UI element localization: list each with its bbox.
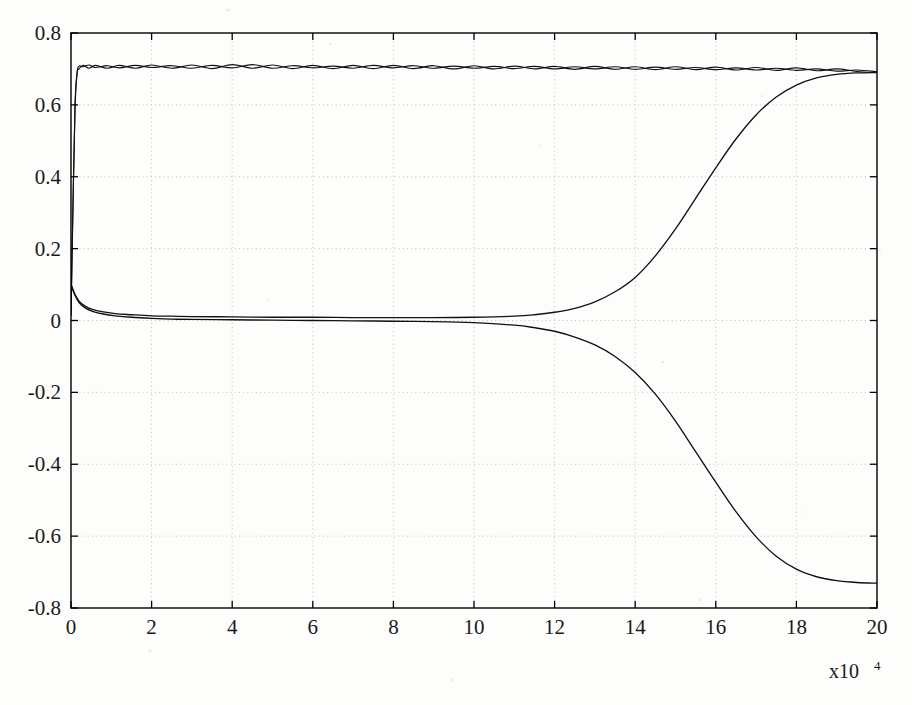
y-tick-label: 0.6 [35,93,61,117]
y-tick-label: 0.2 [35,237,61,261]
x-tick-label: 8 [388,615,399,639]
x-tick-label: 6 [308,615,319,639]
y-tick-label: -0.2 [28,380,61,404]
x-tick-label: 10 [464,615,485,639]
x-axis-tick-labels: 02468101214161820 [66,615,888,639]
x-tick-label: 16 [705,615,726,639]
y-tick-label: -0.4 [28,452,62,476]
y-tick-label: 0.8 [35,21,61,45]
grid-lines [71,33,877,608]
chart-figure: 02468101214161820-0.8-0.6-0.4-0.200.20.4… [0,0,912,705]
y-axis-tick-labels: -0.8-0.6-0.4-0.200.20.40.60.8 [28,21,62,620]
y-tick-label: 0.4 [35,165,62,189]
paper-texture [95,8,881,681]
x-tick-label: 0 [66,615,77,639]
x-tick-label: 2 [146,615,157,639]
y-tick-label: -0.6 [28,524,61,548]
x-tick-label: 14 [625,615,647,639]
x-tick-label: 12 [544,615,565,639]
series-falling-sigmoid [71,285,877,584]
y-tick-label: 0 [51,309,62,333]
multiplier-base: x10 [829,660,859,682]
y-tick-label: -0.8 [28,596,61,620]
x-tick-label: 18 [786,615,807,639]
multiplier-exponent: 4 [874,658,881,673]
x-tick-label: 20 [867,615,888,639]
x-tick-label: 4 [227,615,238,639]
x-axis-multiplier-label: x104 [829,658,881,682]
